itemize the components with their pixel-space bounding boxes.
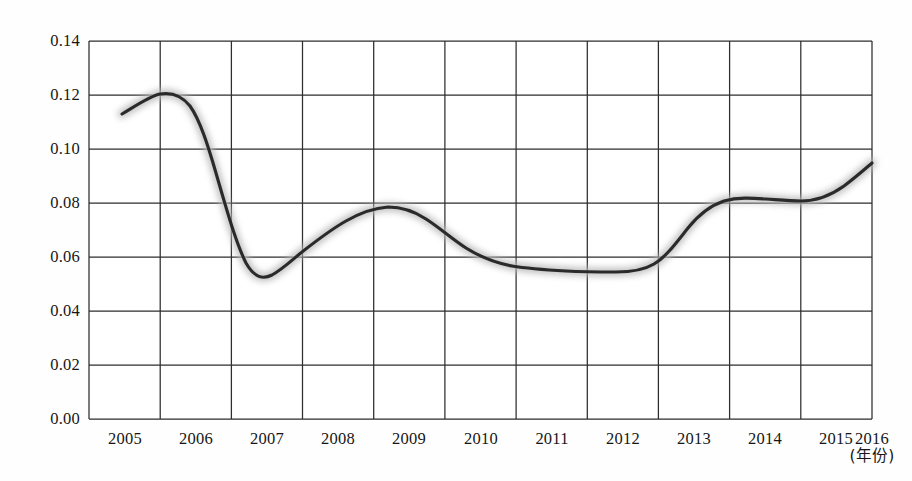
y-tick-label: 0.00 (22, 411, 80, 428)
x-tick-label-2009: 2009 (392, 430, 426, 447)
x-tick-label-2015: 2015 (819, 430, 853, 447)
x-tick-label-2007: 2007 (250, 430, 284, 447)
x-tick-label-2005: 2005 (108, 430, 142, 447)
x-tick-label-2010: 2010 (464, 430, 498, 447)
y-tick-label: 0.04 (22, 303, 80, 320)
x-tick-label-2011: 2011 (535, 430, 568, 447)
y-tick-label: 0.14 (22, 33, 80, 50)
chart-container: 0.14 0.12 0.10 0.08 0.06 0.04 0.02 0.00 … (0, 0, 912, 481)
y-tick-label: 0.08 (22, 195, 80, 212)
y-tick-label: 0.10 (22, 141, 80, 158)
x-tick-label-2008: 2008 (321, 430, 355, 447)
x-axis-unit-label: (年份) (850, 448, 895, 464)
line-chart-plot (0, 0, 912, 481)
x-tick-label-2016-year: 2016 (855, 429, 889, 448)
x-tick-label-2016: 2016 (年份) (850, 430, 895, 465)
plot-background (89, 41, 872, 419)
x-tick-label-2012: 2012 (606, 430, 640, 447)
x-tick-label-2013: 2013 (677, 430, 711, 447)
x-tick-label-2014: 2014 (748, 430, 782, 447)
x-tick-label-2006: 2006 (179, 430, 213, 447)
y-tick-label: 0.06 (22, 249, 80, 266)
y-tick-label: 0.12 (22, 87, 80, 104)
y-tick-label: 0.02 (22, 357, 80, 374)
